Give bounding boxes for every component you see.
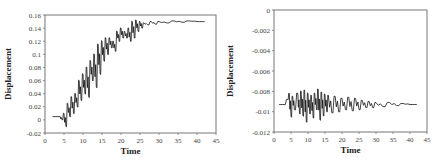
y-tick-label: 0.16 [29,12,42,20]
x-axis-title: Time [121,146,141,156]
x-tick-label: 45 [424,136,432,144]
right-displacement-chart: 0510152025303540450-0.002-0.004-0.006-0.… [221,0,442,167]
x-tick-label: 35 [175,137,183,145]
y-tick-label: 0 [267,7,271,15]
y-tick-label: -0.002 [252,27,271,35]
y-tick-label: 0.02 [29,103,42,111]
x-tick-label: 20 [339,136,347,144]
x-axis-title: Time [341,145,361,155]
x-tick-label: 25 [356,136,364,144]
x-tick-label: 30 [373,136,381,144]
y-tick-label: -0.012 [252,129,271,137]
x-tick-label: 0 [43,137,47,145]
x-tick-label: 10 [305,136,313,144]
y-tick-label: -0.006 [252,68,271,76]
y-tick-label: 0.04 [29,90,42,98]
left-chart-svg: 051015202530354045-0.0200.020.040.060.08… [0,0,221,167]
y-tick-label: 0 [38,116,42,124]
y-tick-label: 0.12 [29,38,42,46]
y-tick-label: 0.1 [32,51,41,59]
x-tick-label: 15 [99,137,107,145]
y-axis-title: Displacement [225,45,235,97]
plot-frame [274,10,427,132]
y-tick-label: -0.008 [252,88,271,96]
x-tick-label: 0 [272,136,276,144]
x-tick-label: 40 [194,137,202,145]
x-tick-label: 10 [80,137,88,145]
x-tick-label: 15 [322,136,330,144]
y-tick-label: 0.14 [29,25,42,33]
x-tick-label: 45 [213,137,221,145]
x-tick-label: 40 [407,136,415,144]
x-tick-label: 5 [289,136,293,144]
y-tick-label: -0.004 [252,47,271,55]
y-axis-title: Displacement [3,48,13,100]
displacement-series-line [279,89,417,122]
x-tick-label: 30 [156,137,164,145]
x-tick-label: 25 [137,137,145,145]
y-tick-label: 0.06 [29,77,42,85]
y-tick-label: -0.02 [26,130,41,138]
y-tick-label: 0.08 [29,64,42,72]
left-displacement-chart: 051015202530354045-0.0200.020.040.060.08… [0,0,221,167]
x-tick-label: 35 [390,136,398,144]
right-chart-svg: 0510152025303540450-0.002-0.004-0.006-0.… [221,0,442,167]
y-tick-label: -0.01 [255,108,270,116]
x-tick-label: 5 [62,137,66,145]
displacement-series-line [53,20,205,127]
x-tick-label: 20 [118,137,126,145]
